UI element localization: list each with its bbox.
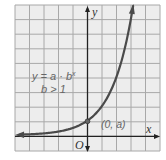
y-intercept-point — [85, 119, 90, 124]
condition-label: b > 1 — [41, 83, 66, 95]
equation-main: y = a · b — [31, 70, 72, 82]
origin-label: O — [75, 138, 84, 152]
x-axis-label: x — [145, 122, 152, 136]
equation-label: y = a · bx — [31, 70, 76, 82]
y-axis-label: y — [91, 5, 98, 19]
intercept-label: (0, a) — [101, 118, 126, 130]
equation-exponent: x — [71, 70, 76, 77]
exponential-growth-chart: x y O y = a · bx b > 1 (0, a) — [0, 0, 166, 160]
